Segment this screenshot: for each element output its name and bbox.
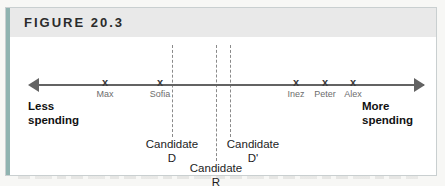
voter-mark-icon: x bbox=[322, 77, 328, 88]
voter-label: Sofia bbox=[150, 90, 171, 99]
voter-mark-icon: x bbox=[102, 77, 108, 88]
candidate-d-dashed-line bbox=[172, 45, 173, 137]
voter-mark-icon: x bbox=[157, 77, 163, 88]
axis-right-label-line2: spending bbox=[362, 113, 413, 127]
figure-title: FIGURE 20.3 bbox=[24, 15, 124, 30]
figure-card: FIGURE 20.3 x Max x Sofia x Inez bbox=[5, 7, 437, 176]
voter-mark-icon: x bbox=[350, 77, 356, 88]
candidate-dprime-dashed-line bbox=[230, 45, 231, 137]
figure-plot-area: x Max x Sofia x Inez x Peter x Alex Less bbox=[10, 37, 436, 175]
voter-label: Max bbox=[96, 90, 113, 99]
axis-left-label-line2: spending bbox=[28, 113, 79, 127]
voter-label: Peter bbox=[314, 90, 336, 99]
voter-mark-icon: x bbox=[293, 77, 299, 88]
candidate-r-dashed-line bbox=[216, 45, 217, 161]
candidate-dprime-caption-line1: Candidate bbox=[227, 137, 279, 151]
figure-title-band: FIGURE 20.3 bbox=[10, 8, 436, 37]
arrow-left-icon bbox=[28, 78, 39, 92]
number-line-axis bbox=[34, 84, 424, 86]
axis-left-label-line1: Less bbox=[28, 99, 79, 113]
number-line-diagram: x Max x Sofia x Inez x Peter x Alex Less bbox=[10, 37, 436, 175]
axis-right-label-line1: More bbox=[362, 99, 413, 113]
axis-left-label: Less spending bbox=[28, 99, 79, 128]
voter-label: Alex bbox=[344, 90, 362, 99]
axis-right-label: More spending bbox=[362, 99, 413, 128]
candidate-r-caption-line2: R bbox=[190, 175, 242, 186]
candidate-d-caption-line1: Candidate bbox=[146, 137, 198, 151]
voter-label: Inez bbox=[287, 90, 304, 99]
candidate-r-caption: Candidate R bbox=[190, 161, 242, 186]
arrow-right-icon bbox=[414, 78, 425, 92]
candidate-r-caption-line1: Candidate bbox=[190, 161, 242, 175]
